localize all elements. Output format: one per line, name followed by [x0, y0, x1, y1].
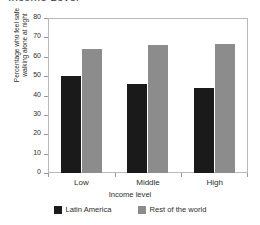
y-axis-tick-label: 0: [37, 168, 41, 175]
y-axis-tick-label: 60: [33, 52, 41, 59]
bar: [82, 49, 102, 173]
legend-swatch: [138, 206, 146, 214]
y-axis-tick-label: 50: [33, 71, 41, 78]
y-axis-tick-label: 70: [33, 32, 41, 39]
x-axis-tick-label: High: [206, 178, 222, 187]
x-axis-tick-mark: [115, 173, 116, 177]
x-axis-tick-mark: [48, 173, 49, 177]
legend-entry: Rest of the world: [138, 205, 207, 214]
bar: [194, 88, 214, 173]
bar-group: [115, 18, 182, 173]
x-axis-tick-mark: [247, 173, 248, 177]
bar: [148, 45, 168, 173]
x-axis-ticks: LowMiddleHigh: [48, 173, 248, 187]
bar: [127, 84, 147, 173]
legend-label: Rest of the world: [150, 205, 207, 214]
y-axis-ticks: 01020304050607080: [0, 18, 48, 173]
y-axis-tick-label: 80: [33, 13, 41, 20]
legend: Latin AmericaRest of the world: [0, 205, 260, 214]
bars-layer: [48, 18, 248, 173]
bar: [215, 44, 235, 173]
x-axis-title: Income level: [0, 190, 260, 199]
x-axis-tick-mark: [181, 173, 182, 177]
bar-chart: Income Level Percentage who feel safe wa…: [0, 0, 260, 225]
legend-swatch: [54, 206, 62, 214]
bar: [61, 76, 81, 173]
x-axis-tick-label: Middle: [136, 178, 160, 187]
y-axis-tick-label: 40: [33, 91, 41, 98]
legend-entry: Latin America: [54, 205, 112, 214]
x-axis-tick-label: Low: [74, 178, 89, 187]
y-axis-tick-label: 20: [33, 129, 41, 136]
bar-group: [181, 18, 248, 173]
bar-group: [48, 18, 115, 173]
y-axis-tick-label: 10: [33, 149, 41, 156]
legend-label: Latin America: [66, 205, 112, 214]
y-axis-tick-label: 30: [33, 110, 41, 117]
